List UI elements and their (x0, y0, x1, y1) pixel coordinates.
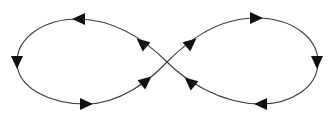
arrow-left-bottom-icon (80, 98, 93, 110)
left-loop-curve (17, 19, 167, 104)
arrow-right-side-icon (311, 56, 323, 69)
arrow-right-top-icon (250, 12, 263, 24)
arrow-left-side-icon (11, 56, 23, 69)
figure-eight-diagram (0, 0, 334, 121)
arrow-left-top-icon (72, 13, 85, 25)
right-loop-curve (167, 18, 318, 104)
arrow-left-lower-inner-icon (138, 72, 156, 90)
arrow-right-bottom-icon (254, 98, 267, 110)
